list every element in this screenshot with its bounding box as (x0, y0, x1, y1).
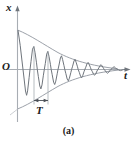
lower-envelope-curve (18, 70, 118, 109)
damped-oscillation-figure: x t O T (a) (0, 0, 137, 145)
origin-label: O (2, 61, 10, 72)
figure-caption: (a) (0, 126, 137, 136)
period-label: T (36, 105, 43, 116)
y-axis-label: x (6, 2, 12, 13)
y-axis (15, 6, 19, 123)
oscillation-plot (0, 0, 137, 145)
upper-envelope-curve (18, 30, 118, 69)
x-axis-label: t (124, 70, 127, 81)
envelope-origin-tail (10, 109, 18, 115)
period-drop-lines (34, 47, 48, 105)
